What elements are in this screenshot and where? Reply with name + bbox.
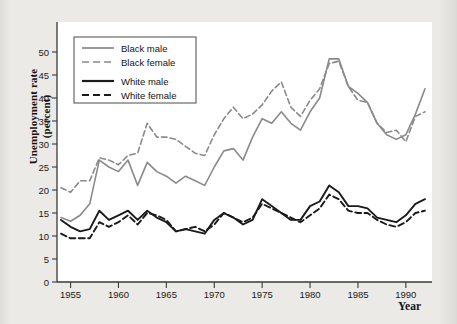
x-axis-tick-label: 1965: [156, 289, 177, 300]
y-axis-tick-label: 45: [38, 70, 49, 81]
x-axis-tick-label: 1960: [108, 289, 129, 300]
x-axis-tick-label: 1980: [299, 289, 320, 300]
legend-label-white-male: White male: [121, 76, 169, 87]
y-axis-tick-label: 15: [38, 208, 49, 219]
y-axis-tick-label: 25: [38, 162, 49, 173]
x-axis-tick-label: 1955: [60, 289, 81, 300]
y-axis-tick-label: 50: [38, 47, 49, 58]
y-axis-tick-label: 35: [38, 116, 49, 127]
legend-label-white-female: White female: [121, 90, 176, 101]
legend-label-black-female: Black female: [121, 57, 175, 68]
x-axis-tick-label: 1985: [347, 289, 368, 300]
y-axis-tick-label: 10: [38, 231, 49, 242]
y-axis-tick-label: 0: [44, 277, 49, 288]
y-axis-tick-label: 40: [38, 93, 49, 104]
y-axis-tick-label: 5: [44, 254, 49, 265]
chart-legend: Black maleBlack femaleWhite maleWhite fe…: [74, 37, 196, 103]
x-axis-tick-label: 1990: [395, 289, 416, 300]
y-axis-tick-label: 20: [38, 185, 49, 196]
y-axis-tick-label: 30: [38, 139, 49, 150]
x-axis-tick-label: 1970: [204, 289, 225, 300]
x-axis-tick-label: 1975: [252, 289, 273, 300]
chart-figure: Unemployment rate (percent) Year 0510152…: [0, 0, 457, 324]
chart-canvas: 0510152025303540455019551960196519701975…: [0, 0, 457, 324]
legend-label-black-male: Black male: [121, 43, 167, 54]
